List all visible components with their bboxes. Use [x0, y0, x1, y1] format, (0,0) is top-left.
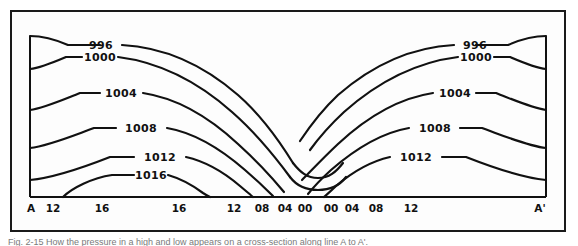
figure-frame	[10, 10, 566, 232]
figure-caption: Fig. 2-15 How the pressure in a high and…	[8, 236, 572, 246]
figure-container: 996 1000 1004 1008 1012 1016 996 1000 10…	[0, 0, 578, 246]
